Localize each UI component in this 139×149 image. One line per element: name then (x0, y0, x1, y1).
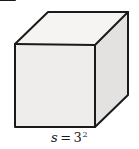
cube-svg (0, 0, 139, 149)
cube-figure: s=32 (0, 0, 139, 149)
front-face (15, 44, 95, 127)
